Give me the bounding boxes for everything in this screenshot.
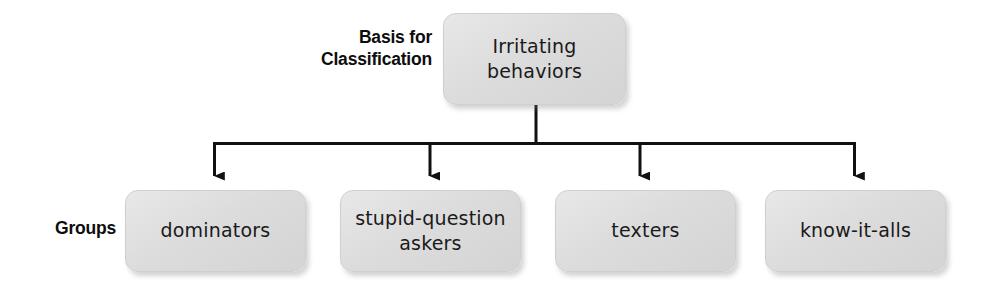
node-texters[interactable]: texters — [555, 190, 736, 272]
row-label-groups: Groups — [0, 217, 116, 239]
node-stupid-question-askers[interactable]: stupid-question askers — [340, 190, 521, 272]
node-label: stupid-question askers — [347, 206, 514, 256]
node-label: dominators — [153, 218, 279, 243]
row-label-basis-for-classification: Basis for Classification — [286, 26, 432, 71]
node-label: know-it-alls — [792, 218, 919, 243]
node-dominators[interactable]: dominators — [125, 190, 306, 272]
node-irritating-behaviors[interactable]: Irritating behaviors — [443, 13, 626, 105]
node-know-it-alls[interactable]: know-it-alls — [765, 190, 946, 272]
node-label: Irritating behaviors — [479, 34, 590, 84]
node-label: texters — [603, 218, 687, 243]
classification-diagram: Basis for Classification Groups Irritati… — [0, 0, 987, 294]
